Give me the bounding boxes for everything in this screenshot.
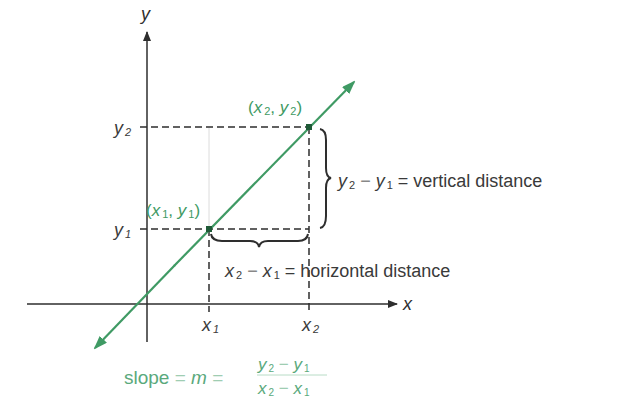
vertical-brace bbox=[320, 129, 331, 228]
slope-diagram: x y y2 y1 x1 x2 (x2, y2) (x1, y1) y2 − y… bbox=[0, 0, 622, 419]
tick-label-y2: y2 bbox=[112, 118, 131, 138]
point-2-label: (x2, y2) bbox=[248, 98, 302, 117]
formula-numerator: y2 − y1 bbox=[257, 355, 310, 374]
slope-formula: slope = m = y2 − y1 x2 − x1 bbox=[124, 355, 327, 398]
horizontal-brace bbox=[211, 234, 308, 247]
tick-label-y1: y1 bbox=[112, 220, 131, 240]
point-1 bbox=[206, 226, 212, 232]
diagram-canvas: x y y2 y1 x1 x2 (x2, y2) (x1, y1) y2 − y… bbox=[0, 0, 622, 419]
tick-label-x2: x2 bbox=[301, 315, 319, 335]
formula-lhs: slope = m = bbox=[124, 367, 223, 388]
sloped-line-lower bbox=[95, 265, 175, 348]
tick-label-x1: x1 bbox=[201, 315, 219, 335]
formula-denominator: x2 − x1 bbox=[257, 379, 310, 398]
x-axis-label: x bbox=[402, 294, 413, 314]
vertical-distance-label: y2 − y1 = vertical distance bbox=[336, 171, 542, 191]
horizontal-distance-label: x2 − x1 = horizontal distance bbox=[224, 261, 450, 281]
y-axis-label: y bbox=[139, 4, 151, 24]
point-2 bbox=[306, 124, 312, 130]
point-1-label: (x1, y1) bbox=[146, 201, 200, 220]
